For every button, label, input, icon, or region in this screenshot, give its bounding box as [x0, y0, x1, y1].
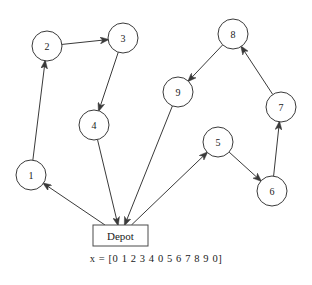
- edge-8-to-9: [188, 45, 222, 81]
- node-label-3: 3: [121, 33, 126, 44]
- route-graph: Depot123456789: [0, 0, 312, 285]
- edge-4-to-depot: [98, 140, 118, 225]
- node-label-1: 1: [29, 170, 34, 181]
- edge-6-to-7: [274, 122, 280, 176]
- node-label-2: 2: [45, 41, 50, 52]
- edge-1-to-2: [33, 61, 45, 160]
- edge-depot-to-1: [43, 183, 105, 225]
- edge-9-to-depot: [125, 106, 173, 225]
- node-label-9: 9: [176, 87, 181, 98]
- edges-layer: [33, 40, 280, 225]
- node-label-4: 4: [92, 120, 97, 131]
- diagram-canvas: Depot123456789 x = [0 1 2 3 4 0 5 6 7 8 …: [0, 0, 312, 285]
- edge-depot-to-5: [131, 152, 207, 225]
- node-label-8: 8: [231, 29, 236, 40]
- edge-7-to-8: [241, 47, 273, 95]
- nodes-layer: Depot123456789: [16, 19, 296, 246]
- node-label-5: 5: [216, 137, 221, 148]
- depot-label: Depot: [107, 230, 134, 242]
- edge-5-to-6: [229, 152, 261, 181]
- node-label-7: 7: [279, 102, 284, 113]
- tour-vector-caption: x = [0 1 2 3 4 0 5 6 7 8 9 0]: [0, 253, 312, 264]
- edge-3-to-4: [99, 52, 119, 111]
- node-label-6: 6: [270, 186, 275, 197]
- edge-2-to-3: [62, 40, 108, 45]
